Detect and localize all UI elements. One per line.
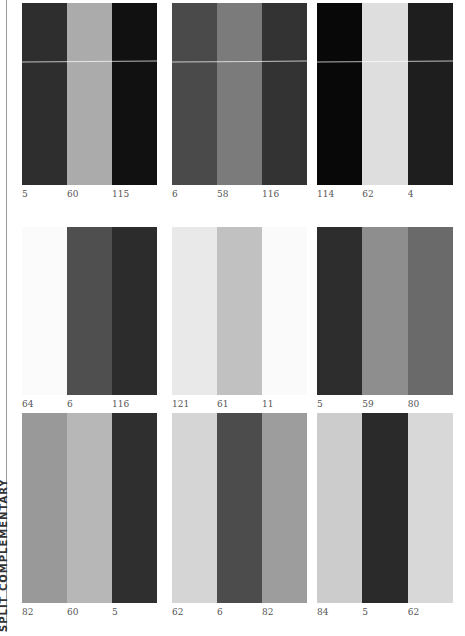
stripe-value: 5 bbox=[112, 607, 157, 617]
color-stripe bbox=[362, 227, 407, 395]
swatch-labels: 560115 bbox=[22, 189, 157, 199]
stripe-value: 6 bbox=[172, 189, 217, 199]
stripe-value: 121 bbox=[172, 399, 217, 409]
color-stripe bbox=[22, 413, 67, 603]
color-stripe bbox=[172, 227, 217, 395]
swatch-panel bbox=[22, 413, 157, 603]
stripe-value: 62 bbox=[362, 189, 407, 199]
stripe-value: 82 bbox=[22, 607, 67, 617]
color-stripe bbox=[408, 3, 453, 185]
stripe-value: 11 bbox=[262, 399, 307, 409]
stripe-value: 5 bbox=[22, 189, 67, 199]
color-stripe bbox=[67, 3, 112, 185]
color-stripe bbox=[362, 3, 407, 185]
color-stripe bbox=[408, 413, 453, 603]
swatch-labels: 62682 bbox=[172, 607, 307, 617]
swatch-labels: 84562 bbox=[317, 607, 453, 617]
stripe-value: 62 bbox=[408, 607, 453, 617]
color-stripe bbox=[262, 3, 307, 185]
color-stripe bbox=[262, 227, 307, 395]
stripe-value: 6 bbox=[67, 399, 112, 409]
color-stripe bbox=[217, 3, 262, 185]
color-stripe bbox=[262, 413, 307, 603]
swatch-panel bbox=[172, 3, 307, 185]
stripe-value: 115 bbox=[112, 189, 157, 199]
swatch-panel bbox=[317, 413, 453, 603]
swatch-labels: 82605 bbox=[22, 607, 157, 617]
stripe-value: 5 bbox=[317, 399, 362, 409]
swatch-panel bbox=[22, 227, 157, 395]
swatch-panel bbox=[22, 3, 157, 185]
stripe-value: 61 bbox=[217, 399, 262, 409]
stripe-value: 114 bbox=[317, 189, 362, 199]
stripe-value: 82 bbox=[262, 607, 307, 617]
color-stripe bbox=[22, 3, 67, 185]
stripe-value: 5 bbox=[362, 607, 407, 617]
color-stripe bbox=[217, 227, 262, 395]
color-stripe bbox=[67, 227, 112, 395]
stripe-value: 59 bbox=[362, 399, 407, 409]
stripe-value: 4 bbox=[408, 189, 453, 199]
swatch-panel bbox=[172, 227, 307, 395]
color-stripe bbox=[172, 3, 217, 185]
color-stripe bbox=[217, 413, 262, 603]
swatch-labels: 114624 bbox=[317, 189, 453, 199]
stripe-value: 6 bbox=[217, 607, 262, 617]
stripe-value: 116 bbox=[112, 399, 157, 409]
stripe-value: 64 bbox=[22, 399, 67, 409]
color-stripe bbox=[112, 227, 157, 395]
stripe-value: 84 bbox=[317, 607, 362, 617]
stripe-value: 62 bbox=[172, 607, 217, 617]
stripe-value: 58 bbox=[217, 189, 262, 199]
color-stripe bbox=[112, 3, 157, 185]
color-stripe bbox=[317, 413, 362, 603]
swatch-panel bbox=[317, 3, 453, 185]
swatch-panel bbox=[172, 413, 307, 603]
stripe-value: 60 bbox=[67, 607, 112, 617]
side-label: SPLIT COMPLEMENTARY bbox=[0, 478, 9, 632]
color-stripe bbox=[317, 227, 362, 395]
stripe-value: 116 bbox=[262, 189, 307, 199]
color-stripe bbox=[317, 3, 362, 185]
color-stripe bbox=[408, 227, 453, 395]
color-stripe bbox=[112, 413, 157, 603]
stripe-value: 60 bbox=[67, 189, 112, 199]
swatch-labels: 1216111 bbox=[172, 399, 307, 409]
swatch-labels: 646116 bbox=[22, 399, 157, 409]
color-stripe bbox=[67, 413, 112, 603]
stripe-value: 80 bbox=[408, 399, 453, 409]
swatch-labels: 658116 bbox=[172, 189, 307, 199]
color-stripe bbox=[172, 413, 217, 603]
swatch-panel bbox=[317, 227, 453, 395]
swatch-labels: 55980 bbox=[317, 399, 453, 409]
color-stripe bbox=[362, 413, 407, 603]
color-stripe bbox=[22, 227, 67, 395]
